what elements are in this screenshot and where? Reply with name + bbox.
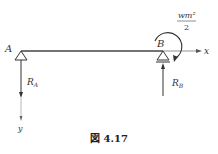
reaction-a-arrow-icon (19, 92, 23, 98)
pin-support-a-icon (15, 51, 27, 60)
reaction-a-label: RA (26, 77, 39, 88)
point-b-label: B (156, 38, 164, 49)
reaction-b-label: RB (171, 78, 184, 89)
reaction-b-arrow-icon (161, 63, 165, 69)
moment-denominator: 2 (184, 23, 189, 32)
moment-arrow-icon (173, 55, 178, 62)
x-axis-label: x (204, 46, 209, 56)
point-a-label: A (4, 43, 12, 54)
y-axis-arrow-icon (20, 116, 23, 121)
roller-support-b-icon (157, 51, 169, 60)
x-axis-arrow-icon (196, 49, 202, 53)
figure-caption: 図 4.17 (0, 130, 218, 145)
moment-numerator: wm² (178, 11, 196, 20)
